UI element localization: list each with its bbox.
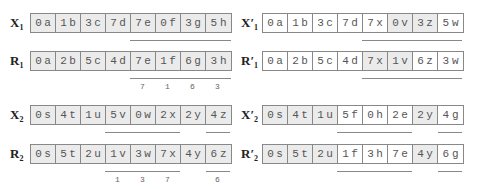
array-r2-prime: 0s5t2u1f3h7e4y6g bbox=[262, 144, 464, 164]
cell-value: 5 bbox=[292, 148, 299, 160]
array-cell: 3w bbox=[438, 52, 463, 70]
cell-value: 4 bbox=[110, 55, 117, 67]
cell-key: e bbox=[401, 148, 408, 160]
cell-value: 2 bbox=[85, 148, 92, 160]
underline bbox=[105, 171, 180, 172]
cell-key: y bbox=[194, 109, 201, 121]
array-cell: 1f bbox=[338, 145, 363, 163]
array-cell: 7e bbox=[388, 145, 413, 163]
cell-value: 5 bbox=[210, 17, 217, 29]
array-cell: 6g bbox=[181, 52, 206, 70]
cell-value: 2 bbox=[60, 55, 67, 67]
row-label-r2: R2 bbox=[10, 144, 23, 169]
row-label-r2-prime: R′2 bbox=[241, 144, 258, 169]
diff-number: 6 bbox=[205, 175, 230, 184]
cell-key: z bbox=[426, 17, 433, 29]
cell-value: 3 bbox=[442, 55, 449, 67]
cell-key: v bbox=[401, 17, 408, 29]
cell-key: v bbox=[119, 109, 126, 121]
cell-value: 7 bbox=[392, 148, 399, 160]
diff-number: 7 bbox=[130, 82, 155, 91]
cell-value: 2 bbox=[392, 109, 399, 121]
cell-key: f bbox=[351, 148, 358, 160]
array-cell: 2u bbox=[313, 145, 338, 163]
cell-key: w bbox=[144, 148, 151, 160]
array-cell: 7e bbox=[131, 52, 156, 70]
underline bbox=[337, 132, 412, 133]
cell-key: s bbox=[276, 109, 283, 121]
array-r1-prime: 0a2b5c4d7x1v6z3w bbox=[262, 51, 464, 71]
array-cell: 1f bbox=[156, 52, 181, 70]
array-cell: 0a bbox=[263, 14, 288, 32]
cell-value: 3 bbox=[210, 55, 217, 67]
array-cell: 0s bbox=[31, 145, 56, 163]
cell-value: 0 bbox=[35, 148, 42, 160]
cell-value: 1 bbox=[317, 109, 324, 121]
cell-key: t bbox=[69, 148, 76, 160]
array-cell: 2x bbox=[156, 106, 181, 124]
cell-key: y bbox=[426, 148, 433, 160]
array-cell: 0f bbox=[156, 14, 181, 32]
array-r2: 0s5t2u1v3w7x4y6z bbox=[30, 144, 232, 164]
cell-value: 3 bbox=[417, 17, 424, 29]
cell-key: f bbox=[169, 17, 176, 29]
cell-value: 3 bbox=[85, 17, 92, 29]
cell-key: t bbox=[301, 148, 308, 160]
cell-value: 2 bbox=[160, 109, 167, 121]
cell-key: w bbox=[452, 17, 459, 29]
cell-key: d bbox=[119, 55, 126, 67]
array-cell: 3g bbox=[181, 14, 206, 32]
underline bbox=[438, 132, 462, 133]
cell-value: 0 bbox=[267, 17, 274, 29]
diff-number: 3 bbox=[205, 82, 230, 91]
cell-key: h bbox=[220, 55, 227, 67]
cell-value: 3 bbox=[367, 148, 374, 160]
array-cell: 5t bbox=[288, 145, 313, 163]
cell-key: v bbox=[119, 148, 126, 160]
row-label-r1: R1 bbox=[10, 51, 23, 76]
cell-key: u bbox=[326, 109, 333, 121]
array-cell: 0w bbox=[131, 106, 156, 124]
cell-value: 0 bbox=[367, 109, 374, 121]
row-label-r1-prime: R′1 bbox=[241, 51, 258, 76]
array-cell: 4t bbox=[288, 106, 313, 124]
underline bbox=[362, 78, 462, 79]
array-cell: 0a bbox=[31, 14, 56, 32]
array-cell: 2y bbox=[413, 106, 438, 124]
array-cell: 5h bbox=[206, 14, 231, 32]
cell-value: 0 bbox=[267, 55, 274, 67]
array-cell: 1b bbox=[56, 14, 81, 32]
cell-key: u bbox=[326, 148, 333, 160]
cell-key: a bbox=[276, 17, 283, 29]
cell-key: s bbox=[44, 148, 51, 160]
cell-value: 7 bbox=[110, 17, 117, 29]
diff-number: 1 bbox=[155, 82, 180, 91]
cell-key: w bbox=[144, 109, 151, 121]
underline bbox=[206, 171, 230, 172]
array-cell: 2u bbox=[81, 145, 106, 163]
cell-value: 4 bbox=[342, 55, 349, 67]
cell-key: f bbox=[351, 109, 358, 121]
cell-key: d bbox=[351, 55, 358, 67]
cell-key: s bbox=[44, 109, 51, 121]
diff-number: 3 bbox=[130, 175, 155, 184]
array-cell: 6z bbox=[413, 52, 438, 70]
cell-key: v bbox=[401, 55, 408, 67]
cell-key: e bbox=[401, 109, 408, 121]
underline bbox=[438, 171, 462, 172]
cell-key: h bbox=[376, 109, 383, 121]
array-cell: 6z bbox=[206, 145, 231, 163]
cell-value: 1 bbox=[110, 148, 117, 160]
cell-value: 4 bbox=[60, 109, 67, 121]
cell-key: h bbox=[376, 148, 383, 160]
cell-value: 1 bbox=[292, 17, 299, 29]
array-cell: 7e bbox=[131, 14, 156, 32]
array-cell: 2b bbox=[288, 52, 313, 70]
cell-key: a bbox=[44, 55, 51, 67]
array-cell: 0s bbox=[263, 145, 288, 163]
cell-key: g bbox=[452, 109, 459, 121]
diff-number: 6 bbox=[180, 82, 205, 91]
underline bbox=[206, 132, 230, 133]
array-cell: 1u bbox=[81, 106, 106, 124]
array-x2: 0s4t1u5v0w2x2y4z bbox=[30, 105, 232, 125]
